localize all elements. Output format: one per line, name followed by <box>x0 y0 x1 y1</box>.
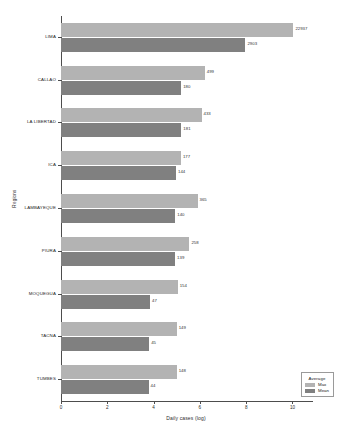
legend-swatch <box>305 383 315 387</box>
category-label: TACNA <box>41 334 56 338</box>
x-axis-label: Daily cases (log) <box>61 415 311 421</box>
category-tick <box>58 294 61 295</box>
bar-max <box>61 23 293 37</box>
category-tick <box>58 165 61 166</box>
x-tick <box>154 401 155 404</box>
bar-max <box>61 365 177 379</box>
bar-group: 229372903LIMA <box>61 23 311 52</box>
bar-group: 14945TACNA <box>61 322 311 351</box>
bar-value-label: 139 <box>177 256 184 260</box>
bar-max <box>61 151 181 165</box>
bar-group: 177144ICA <box>61 151 311 180</box>
legend-label: Mean <box>318 389 329 393</box>
bar-value-label: 433 <box>204 112 211 116</box>
legend-title: Average <box>305 376 329 381</box>
category-tick <box>58 379 61 380</box>
bar-value-label: 144 <box>178 170 185 174</box>
bar-value-label: 47 <box>152 299 157 303</box>
plot-area: 229372903LIMA499180CALLAO433181LA LIBERT… <box>61 16 311 401</box>
bar-value-label: 2903 <box>247 42 257 46</box>
legend-swatch <box>305 389 315 393</box>
bar-group: 14844TUMBES <box>61 365 311 394</box>
x-tick <box>246 401 247 404</box>
category-tick <box>58 80 61 81</box>
x-tick-label: 6 <box>199 406 202 411</box>
x-tick <box>107 401 108 404</box>
bar-value-label: 154 <box>180 284 187 288</box>
x-tick-label: 4 <box>152 406 155 411</box>
bar-value-label: 22937 <box>295 27 307 31</box>
bar-group: 365140LAMBAYEQUE <box>61 194 311 223</box>
category-label: PIURA <box>42 249 56 253</box>
bar-max <box>61 322 177 336</box>
bar-mean <box>61 209 175 223</box>
x-tick-label: 10 <box>290 406 295 411</box>
category-label: CALLAO <box>38 78 56 82</box>
bar-chart: Regions 229372903LIMA499180CALLAO433181L… <box>0 0 340 429</box>
bar-value-label: 149 <box>179 326 186 330</box>
category-tick <box>58 122 61 123</box>
bar-mean <box>61 123 181 137</box>
bar-group: 258139PIURA <box>61 237 311 266</box>
bar-mean <box>61 337 149 351</box>
x-tick-label: 8 <box>245 406 248 411</box>
bar-max <box>61 280 178 294</box>
bar-mean <box>61 295 150 309</box>
category-label: ICA <box>48 163 56 167</box>
bar-mean <box>61 252 175 266</box>
category-label: LIMA <box>45 35 56 39</box>
bar-value-label: 44 <box>151 384 156 388</box>
legend-label: Max <box>318 383 326 387</box>
x-tick <box>292 401 293 404</box>
category-tick <box>58 336 61 337</box>
bar-value-label: 258 <box>191 241 198 245</box>
bar-value-label: 45 <box>151 341 156 345</box>
category-label: LAMBAYEQUE <box>25 206 56 210</box>
x-tick-label: 2 <box>106 406 109 411</box>
category-tick <box>58 251 61 252</box>
bar-value-label: 180 <box>183 85 190 89</box>
category-label: TUMBES <box>37 377 56 381</box>
legend: Average MaxMean <box>301 372 334 397</box>
bar-mean <box>61 81 181 95</box>
bar-max <box>61 108 202 122</box>
bar-max <box>61 237 189 251</box>
x-tick <box>61 401 62 404</box>
bar-group: 499180CALLAO <box>61 66 311 95</box>
x-tick-label: 0 <box>60 406 63 411</box>
category-tick <box>58 208 61 209</box>
bar-value-label: 365 <box>200 198 207 202</box>
legend-item[interactable]: Mean <box>305 389 329 393</box>
bar-value-label: 140 <box>177 213 184 217</box>
y-axis-label: Regions <box>12 169 17 229</box>
bar-max <box>61 66 205 80</box>
bar-mean <box>61 38 245 52</box>
bar-group: 15447MOQUEGUA <box>61 280 311 309</box>
legend-item[interactable]: Max <box>305 383 329 387</box>
bar-value-label: 148 <box>179 369 186 373</box>
bar-value-label: 181 <box>183 127 190 131</box>
bar-value-label: 177 <box>183 155 190 159</box>
bar-mean <box>61 166 176 180</box>
category-label: LA LIBERTAD <box>27 120 56 124</box>
bar-max <box>61 194 198 208</box>
category-label: MOQUEGUA <box>29 292 56 296</box>
x-axis-line <box>61 401 313 402</box>
bar-mean <box>61 380 149 394</box>
x-tick <box>200 401 201 404</box>
category-tick <box>58 37 61 38</box>
bar-value-label: 499 <box>207 70 214 74</box>
bar-group: 433181LA LIBERTAD <box>61 108 311 137</box>
